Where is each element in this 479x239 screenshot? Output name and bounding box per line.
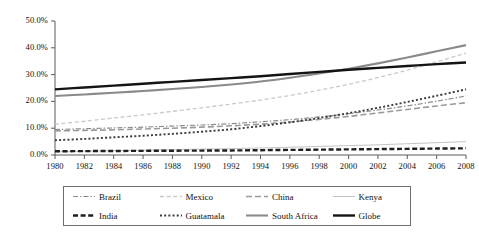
legend-item-china[interactable]: China: [237, 192, 324, 202]
plot-area: [0, 0, 474, 182]
series-line-india: [55, 148, 466, 151]
legend-label-kenya: Kenya: [359, 192, 383, 202]
legend-item-globe[interactable]: Globe: [324, 211, 411, 221]
y-tick-label: 40.0%: [0, 43, 48, 52]
legend-swatch-india: [73, 211, 95, 220]
legend-swatch-mexico: [160, 192, 182, 201]
legend-swatch-guatamala: [160, 211, 182, 220]
legend-label-mexico: Mexico: [186, 192, 214, 202]
series-line-guatamala: [55, 89, 466, 140]
plot-svg: [0, 0, 474, 182]
axis-lines: [55, 21, 466, 155]
series-line-brazil: [55, 96, 466, 129]
legend-item-india[interactable]: India: [64, 211, 151, 221]
series-line-mexico: [55, 53, 466, 124]
legend-swatch-globe: [333, 211, 355, 220]
legend-item-kenya[interactable]: Kenya: [324, 192, 411, 202]
y-tick-label: 50.0%: [0, 16, 48, 25]
legend-label-brazil: Brazil: [99, 192, 121, 202]
y-tick-label: 10.0%: [0, 123, 48, 132]
y-tick-label: 20.0%: [0, 96, 48, 105]
legend-item-mexico[interactable]: Mexico: [151, 192, 238, 202]
y-tick-label: 0.0%: [0, 150, 48, 159]
legend-item-guatamala[interactable]: Guatamala: [151, 211, 238, 221]
legend-label-china: China: [272, 192, 294, 202]
legend-label-india: India: [99, 211, 118, 221]
legend-swatch-china: [246, 192, 268, 201]
legend-item-brazil[interactable]: Brazil: [64, 192, 151, 202]
y-tick-label: 30.0%: [0, 70, 48, 79]
legend-swatch-south-africa: [246, 211, 268, 220]
legend-item-south-africa[interactable]: South Africa: [237, 211, 324, 221]
axis-ticks: [51, 21, 466, 159]
legend-label-south-africa: South Africa: [272, 211, 318, 221]
legend-label-guatamala: Guatamala: [186, 211, 225, 221]
series-line-south-africa: [55, 45, 466, 96]
legend-swatch-kenya: [333, 192, 355, 201]
series-line-globe: [55, 63, 466, 90]
x-tick-label: 2008: [446, 162, 479, 171]
data-series-group: [55, 45, 466, 152]
legend-swatch-brazil: [73, 192, 95, 201]
legend-label-globe: Globe: [359, 211, 381, 221]
chart-legend: BrazilMexicoChinaKenyaIndiaGuatamalaSout…: [63, 186, 411, 226]
